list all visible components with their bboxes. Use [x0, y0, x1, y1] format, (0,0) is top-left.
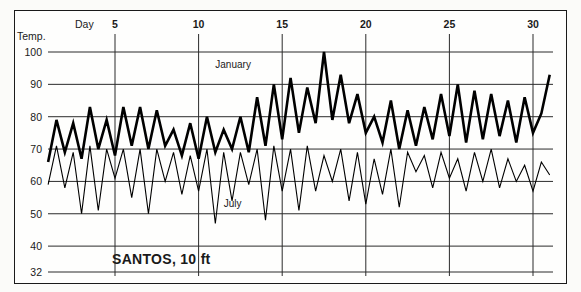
y-tick-label-90: 90 — [30, 78, 42, 90]
y-tick-label-100: 100 — [24, 46, 42, 58]
x-tick-label-day-30: 30 — [527, 18, 539, 30]
y-tick-label-50: 50 — [30, 208, 42, 220]
series-annotation-july: July — [224, 198, 242, 209]
series-line-july — [48, 146, 550, 224]
y-tick-label-80: 80 — [30, 111, 42, 123]
y-tick-label-60: 60 — [30, 175, 42, 187]
chart-figure: 10090807060504032 51015202530 Temp. Day … — [0, 0, 581, 292]
station-title: SANTOS, 10 ft — [112, 251, 211, 267]
series-annotation-january: January — [215, 59, 251, 70]
series-line-january — [48, 52, 550, 162]
x-tick-label-day-20: 20 — [360, 18, 372, 30]
y-axis-title: Temp. — [17, 30, 46, 42]
x-tick-label-day-15: 15 — [276, 18, 288, 30]
x-tick-label-day-25: 25 — [444, 18, 456, 30]
y-axis-tick-labels: 10090807060504032 — [24, 46, 42, 278]
y-tick-label-40: 40 — [30, 240, 42, 252]
x-axis-tick-labels: 51015202530 — [112, 18, 539, 30]
x-tick-label-day-10: 10 — [193, 18, 205, 30]
x-axis-title: Day — [75, 18, 94, 30]
temperature-line-chart: 10090807060504032 51015202530 Temp. Day … — [0, 0, 581, 292]
y-tick-label-70: 70 — [30, 143, 42, 155]
x-tick-label-day-5: 5 — [112, 18, 118, 30]
y-tick-label-32: 32 — [30, 266, 42, 278]
